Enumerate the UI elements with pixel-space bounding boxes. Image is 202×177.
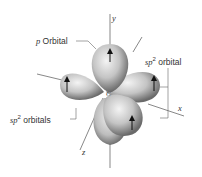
y-axis-label: y <box>112 14 116 23</box>
z-axis-label: z <box>82 148 85 157</box>
orbital-diagram <box>0 0 202 177</box>
sp2-orbital-label: sp2 orbital <box>145 56 181 67</box>
leader-p-orbital <box>76 41 96 49</box>
back-axis-right <box>133 37 142 52</box>
back-axis-left <box>37 74 62 80</box>
x-axis-label: x <box>178 104 182 113</box>
leader-sp2-orbitals <box>70 108 76 119</box>
p-orbital-label: p Orbital <box>36 37 68 46</box>
sp2-orbitals-label: sp2 orbitals <box>10 114 51 125</box>
center-atom-label: C <box>106 90 111 98</box>
